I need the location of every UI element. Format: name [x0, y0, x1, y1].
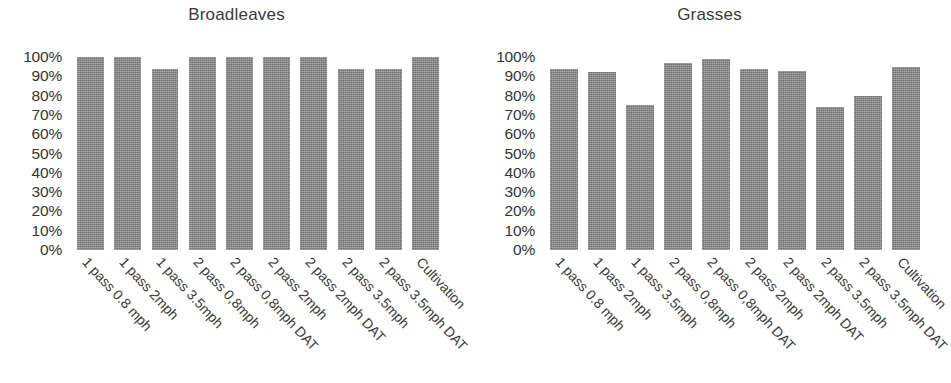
bar: [588, 72, 615, 250]
y-tick-label: 90%: [505, 67, 535, 85]
x-tick-slot: 1 pass 0.8 mph: [545, 252, 583, 383]
chart-panel-grasses: Grasses 100%90%80%70%60%50%40%30%20%10%0…: [473, 0, 946, 383]
plot-area-grasses: [545, 57, 925, 250]
x-tick-slot: 1 pass 0.8 mph: [72, 252, 109, 383]
y-tick-label: 30%: [32, 183, 62, 201]
x-tick-label: Cultivation: [414, 254, 470, 312]
bar: [740, 69, 767, 250]
x-tick-slot: 2 pass 0,8mph DAT: [221, 252, 258, 383]
bar-slot: [811, 57, 849, 250]
x-tick-slot: 1 pass 2mph: [583, 252, 621, 383]
chart-title-grasses: Grasses: [473, 5, 946, 25]
y-tick-label: 100%: [496, 48, 535, 66]
y-tick-label: 100%: [23, 48, 62, 66]
bar-slot: [583, 57, 621, 250]
x-tick-slot: 2 pass 2mph DAT: [773, 252, 811, 383]
x-tick-slot: 2 pass 2mph: [735, 252, 773, 383]
bar-slot: [621, 57, 659, 250]
y-tick-label: 10%: [505, 222, 535, 240]
bar-slot: [72, 57, 109, 250]
y-tick-label: 20%: [32, 202, 62, 220]
y-tick-label: 80%: [32, 87, 62, 105]
y-tick-label: 40%: [32, 164, 62, 182]
y-tick-label: 0%: [513, 241, 535, 259]
bar: [226, 57, 253, 250]
x-tick-slot: 1 pass 3.5mph: [146, 252, 183, 383]
chart-panel-broadleaves: Broadleaves 100%90%80%70%60%50%40%30%20%…: [0, 0, 473, 383]
y-tick-label: 10%: [32, 222, 62, 240]
bar-slot: [659, 57, 697, 250]
x-tick-slot: 2 pass 3.5mph DAT: [370, 252, 407, 383]
y-tick-label: 90%: [32, 67, 62, 85]
y-tick-label: 30%: [505, 183, 535, 201]
bar: [338, 69, 365, 250]
bar: [664, 63, 691, 250]
x-tick-slot: Cultivation: [887, 252, 925, 383]
bar-slot: [545, 57, 583, 250]
bar-slot: [370, 57, 407, 250]
bar-slot: [146, 57, 183, 250]
bar-slot: [258, 57, 295, 250]
bar-slot: [184, 57, 221, 250]
bar: [375, 69, 402, 250]
bar: [626, 105, 653, 250]
y-axis-ticks-broadleaves: 100%90%80%70%60%50%40%30%20%10%0%: [0, 57, 66, 250]
bar-slot: [109, 57, 146, 250]
bar-slot: [735, 57, 773, 250]
bar: [816, 107, 843, 250]
y-tick-label: 20%: [505, 202, 535, 220]
bar-slot: [887, 57, 925, 250]
bar: [152, 69, 179, 250]
bar: [702, 59, 729, 250]
bar: [550, 69, 577, 250]
bar: [263, 57, 290, 250]
x-axis-labels-grasses: 1 pass 0.8 mph1 pass 2mph1 pass 3.5mph2 …: [545, 252, 925, 383]
plot-area-broadleaves: [72, 57, 444, 250]
y-tick-label: 40%: [505, 164, 535, 182]
y-axis-ticks-grasses: 100%90%80%70%60%50%40%30%20%10%0%: [473, 57, 539, 250]
x-tick-slot: 1 pass 3.5mph: [621, 252, 659, 383]
x-tick-slot: 2 pass 2mph DAT: [295, 252, 332, 383]
x-tick-slot: 2 pass 0,8mph: [659, 252, 697, 383]
bar: [892, 67, 919, 250]
bar-slot: [295, 57, 332, 250]
y-tick-label: 50%: [505, 145, 535, 163]
bar: [77, 57, 104, 250]
bar-slot: [332, 57, 369, 250]
y-tick-label: 0%: [40, 241, 62, 259]
x-tick-slot: 2 pass 0,8mph: [184, 252, 221, 383]
bar: [189, 57, 216, 250]
y-tick-label: 60%: [505, 125, 535, 143]
bar: [114, 57, 141, 250]
bar-slot: [773, 57, 811, 250]
x-tick-slot: 2 pass 2mph: [258, 252, 295, 383]
x-tick-label: Cultivation: [894, 254, 950, 312]
bar: [412, 57, 439, 250]
y-tick-label: 80%: [505, 87, 535, 105]
bar: [854, 96, 881, 250]
bar-slot: [407, 57, 444, 250]
x-tick-slot: 2 pass 3.5mph: [332, 252, 369, 383]
y-tick-label: 60%: [32, 125, 62, 143]
x-tick-slot: Cultivation: [407, 252, 444, 383]
y-tick-label: 70%: [32, 106, 62, 124]
y-tick-label: 70%: [505, 106, 535, 124]
y-tick-label: 50%: [32, 145, 62, 163]
bar-slot: [221, 57, 258, 250]
bar-group-broadleaves: [72, 57, 444, 250]
chart-title-broadleaves: Broadleaves: [0, 5, 473, 25]
bar-slot: [697, 57, 735, 250]
bar: [778, 71, 805, 250]
x-tick-slot: 2 pass 3.5mph: [811, 252, 849, 383]
x-axis-labels-broadleaves: 1 pass 0.8 mph1 pass 2mph1 pass 3.5mph2 …: [72, 252, 444, 383]
x-tick-slot: 2 pass 3.5mph DAT: [849, 252, 887, 383]
bar-slot: [849, 57, 887, 250]
x-tick-slot: 2 pass 0,8mph DAT: [697, 252, 735, 383]
x-tick-slot: 1 pass 2mph: [109, 252, 146, 383]
bar: [300, 57, 327, 250]
bar-group-grasses: [545, 57, 925, 250]
